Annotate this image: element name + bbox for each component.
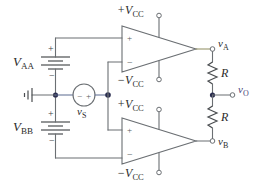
output-terminal-vo[interactable] [230, 93, 235, 98]
node-vb-terminal [210, 139, 215, 144]
circuit-diagram: + − + − [0, 0, 258, 190]
opamp-bottom-vcc-neg-label: −VCC [117, 166, 144, 182]
node-va-label: vA [218, 37, 229, 52]
opamp-bottom-minus-sign: − [127, 149, 133, 160]
vbb-label: VBB [13, 119, 33, 136]
node-vb-label: vB [218, 135, 228, 150]
resistor-top-symbol [208, 62, 217, 84]
vaa-plus-sign: + [48, 43, 54, 54]
opamp-bottom-vcc-neg-terminal[interactable] [157, 170, 162, 175]
opamp-top-vcc-pos-label: +VCC [117, 3, 144, 19]
opamp-top-minus-sign: − [127, 57, 133, 68]
vs-minus-sign: − [77, 91, 82, 101]
resistor-bottom-symbol [208, 106, 217, 128]
opamp-top-plus-sign: + [127, 33, 132, 43]
resistor-bottom-label: R [220, 110, 229, 124]
opamp-top-vcc-pos-terminal[interactable] [157, 13, 162, 18]
output-label-vo: vO [238, 83, 249, 98]
vs-label: vS [77, 105, 86, 120]
opamp-bottom-vcc-pos-label: +VCC [117, 97, 144, 113]
vaa-minus-sign: − [49, 70, 55, 81]
vaa-label: VAA [13, 54, 34, 71]
vs-plus-sign: + [86, 91, 91, 101]
opamp-top-vcc-neg-label: −VCC [117, 73, 144, 89]
vbb-plus-sign: + [48, 108, 54, 119]
node-va-terminal[interactable] [210, 47, 215, 52]
opamp-bottom-vcc-pos-terminal[interactable] [157, 107, 162, 112]
opamp-top-vcc-neg-terminal[interactable] [157, 77, 162, 82]
resistor-top-label: R [220, 66, 229, 80]
schematic-canvas: + − + − [0, 0, 258, 190]
opamp-bottom-plus-sign: + [127, 125, 132, 135]
vbb-minus-sign: − [49, 135, 55, 146]
